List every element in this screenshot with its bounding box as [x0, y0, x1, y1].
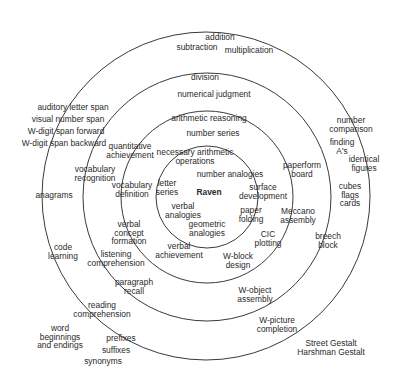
- label-line: development: [239, 192, 287, 201]
- label-word-beginnings-and-endings: wordbeginningsand endings: [37, 324, 83, 350]
- label-w-digit-span-forward: W-digit span forward: [28, 127, 105, 136]
- label-surface-development: surfacedevelopment: [239, 183, 287, 200]
- label-line: Harshman Gestalt: [297, 348, 365, 357]
- label-line: number analogies: [197, 170, 264, 179]
- label-w-digit-span-backward: W-digit span backward: [22, 139, 107, 148]
- label-line: folding: [239, 215, 264, 224]
- label-verbal-concept-formation: verbalconceptformation: [112, 220, 147, 246]
- label-geometric-analogies: geometricanalogies: [189, 220, 226, 237]
- label-reading-comprehension: readingcomprehension: [73, 301, 130, 318]
- label-verbal-analogies: verbalanalogies: [165, 202, 201, 219]
- label-letter-series: letterseries: [156, 179, 178, 196]
- label-line: analogies: [165, 211, 201, 220]
- label-line: auditory letter span: [37, 103, 108, 112]
- label-line: multiplication: [225, 46, 273, 55]
- label-finding-as: findingA's: [330, 138, 355, 155]
- label-line: number series: [186, 129, 239, 138]
- label-anagrams: anagrams: [35, 191, 72, 200]
- label-division: division: [191, 73, 219, 82]
- label-vocabulary-recognition: vocabularyrecognition: [75, 165, 116, 182]
- label-line: division: [191, 73, 219, 82]
- label-arithmetic-reasoning: arithmetic reasoning: [171, 114, 246, 123]
- label-line: figures: [349, 164, 380, 173]
- label-line: addition: [205, 33, 234, 42]
- label-number-analogies: number analogies: [197, 170, 264, 179]
- label-prefixes: prefixes: [106, 334, 135, 343]
- label-multiplication: multiplication: [225, 46, 273, 55]
- label-line: design: [223, 261, 253, 270]
- label-line: subtraction: [177, 43, 218, 52]
- label-line: suffixes: [102, 346, 130, 355]
- label-w-block-design: W-blockdesign: [223, 252, 253, 269]
- label-suffixes: suffixes: [102, 346, 130, 355]
- label-meccano-assembly: Meccanoassembly: [280, 207, 315, 224]
- label-street-harshman-gestalt: Street GestaltHarshman Gestalt: [297, 339, 365, 356]
- label-w-object-assembly: W-objectassembly: [237, 286, 272, 303]
- label-line: formation: [112, 237, 147, 246]
- label-line: Raven: [196, 188, 221, 197]
- label-breech-block: breechblock: [315, 232, 341, 249]
- label-line: recognition: [75, 174, 116, 183]
- label-vocabulary-definition: vocabularydefinition: [112, 181, 153, 198]
- label-line: anagrams: [35, 191, 72, 200]
- label-line: W-digit span forward: [28, 127, 105, 136]
- label-line: comparison: [329, 125, 372, 134]
- label-line: achievement: [106, 151, 154, 160]
- label-subtraction: subtraction: [177, 43, 218, 52]
- label-listening-comprehension: listeningcomprehension: [87, 250, 144, 267]
- label-paperform-board: paperformboard: [283, 161, 321, 178]
- label-verbal-achievement: verbalachievement: [155, 242, 203, 259]
- label-quantitative-achievement: quantitativeachievement: [106, 142, 154, 159]
- label-line: assembly: [237, 295, 272, 304]
- label-numerical-judgment: numerical judgment: [177, 90, 250, 99]
- label-raven: Raven: [196, 188, 221, 197]
- label-line: completion: [257, 325, 298, 334]
- label-visual-number-span: visual number span: [32, 115, 105, 124]
- label-line: plotting: [254, 239, 281, 248]
- label-synonyms: synonyms: [84, 357, 122, 366]
- label-line: learning: [48, 252, 78, 261]
- label-line: cards: [339, 199, 361, 208]
- label-necessary-arithmetic-operations: necessary arithmeticoperations: [157, 148, 234, 165]
- label-number-series: number series: [186, 129, 239, 138]
- label-auditory-letter-span: auditory letter span: [37, 103, 108, 112]
- label-cic-plotting: CICplotting: [254, 230, 281, 247]
- label-addition: addition: [205, 33, 234, 42]
- label-line: prefixes: [106, 334, 135, 343]
- label-line: numerical judgment: [177, 90, 250, 99]
- label-paragraph-recall: paragraphrecall: [115, 278, 153, 295]
- label-line: recall: [115, 287, 153, 296]
- label-line: arithmetic reasoning: [171, 114, 246, 123]
- label-cubes-flags-cards: cubesflagscards: [339, 182, 361, 208]
- label-line: and endings: [37, 341, 83, 350]
- label-w-picture-completion: W-picturecompletion: [257, 316, 298, 333]
- label-line: visual number span: [32, 115, 105, 124]
- label-line: operations: [157, 157, 234, 166]
- label-paper-folding: paperfolding: [239, 206, 264, 223]
- label-line: W-digit span backward: [22, 139, 107, 148]
- label-code-learning: codelearning: [48, 243, 78, 260]
- label-line: assembly: [280, 216, 315, 225]
- label-identical-figures: identicalfigures: [349, 155, 380, 172]
- label-line: board: [283, 170, 321, 179]
- label-line: comprehension: [73, 310, 130, 319]
- label-line: synonyms: [84, 357, 122, 366]
- label-line: analogies: [189, 229, 226, 238]
- label-line: comprehension: [87, 259, 144, 268]
- label-line: series: [156, 188, 178, 197]
- label-number-comparison: numbercomparison: [329, 116, 372, 133]
- label-line: definition: [112, 190, 153, 199]
- label-line: achievement: [155, 251, 203, 260]
- label-line: block: [315, 241, 341, 250]
